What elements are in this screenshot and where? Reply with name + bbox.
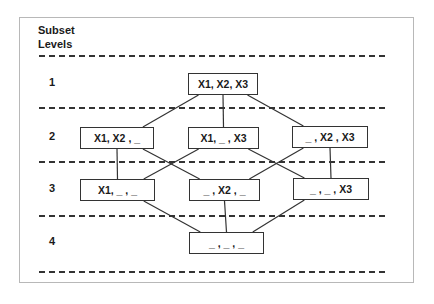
edge-n2-n0	[225, 201, 227, 232]
subset-node-n123: X1, X2, X3	[188, 73, 258, 95]
subset-node-n3: _ , _ , X3	[293, 178, 369, 200]
lattice-edges	[0, 0, 434, 304]
subset-node-n2: _ , X2 , _	[189, 179, 260, 201]
subset-node-n13: X1, _ , X3	[188, 127, 259, 149]
edge-n123-n13	[223, 95, 224, 127]
edge-n123-n23	[248, 95, 304, 126]
subset-node-n12: X1, X2 , _	[80, 127, 154, 149]
edge-n1-n0	[144, 201, 201, 232]
edge-n123-n12	[143, 95, 199, 127]
subset-node-n23: _ , X2 , X3	[292, 126, 368, 148]
edge-n12-n1	[117, 149, 118, 179]
subset-node-n1: X1, _ , _	[80, 179, 155, 201]
edge-n23-n2	[249, 148, 303, 179]
subset-node-n0: _ , _ , _	[189, 232, 264, 254]
edge-n3-n0	[253, 200, 305, 232]
edge-n23-n3	[330, 148, 331, 178]
